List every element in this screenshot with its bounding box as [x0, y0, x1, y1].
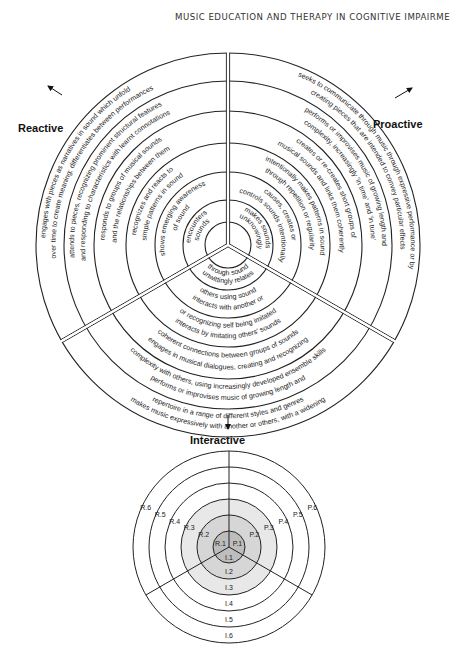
reactive-label: Reactive [18, 122, 63, 134]
proactive-arrow [395, 88, 412, 98]
interactive-label: Interactive [190, 434, 245, 446]
key-label-i-1: I.1 [225, 554, 233, 561]
key-label-p-5: P.5 [293, 511, 303, 518]
reactive-arrow [48, 86, 62, 95]
sounds-of-intent-diagram: encounterssoundsshows emerging awareness… [0, 0, 458, 658]
key-label-p-2: P.2 [250, 531, 260, 538]
key-label-i-6: I.6 [225, 632, 233, 639]
key-wheel: R.1R.2R.3R.4R.5R.6P.1P.2P.3P.4P.5P.6I.1I… [133, 451, 325, 643]
interactive-ring-2-text: others using sound [198, 286, 257, 301]
key-label-r-5: R.5 [155, 511, 166, 518]
key-label-p-3: P.3 [264, 524, 274, 531]
key-label-i-2: I.2 [225, 568, 233, 575]
proactive-label: Proactive [373, 118, 423, 130]
key-label-r-1: R.1 [215, 540, 226, 547]
key-label-i-3: I.3 [225, 584, 233, 591]
key-label-r-4: R.4 [169, 518, 180, 525]
main-wheel: encounterssoundsshows emerging awareness… [36, 52, 420, 437]
key-label-r-3: R.3 [184, 524, 195, 531]
key-label-p-1: P.1 [233, 540, 243, 547]
key-label-p-4: P.4 [279, 518, 289, 525]
key-label-r-2: R.2 [198, 531, 209, 538]
key-label-i-4: I.4 [225, 600, 233, 607]
key-label-i-5: I.5 [225, 616, 233, 623]
key-label-r-6: R.6 [140, 504, 151, 511]
key-label-p-6: P.6 [308, 504, 318, 511]
